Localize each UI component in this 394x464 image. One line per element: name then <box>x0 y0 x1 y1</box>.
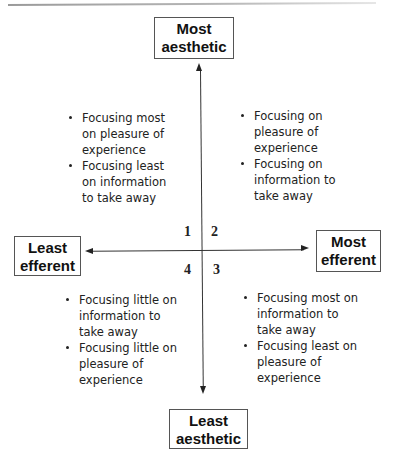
axis-label-least-aesthetic: Least aesthetic <box>169 409 248 449</box>
vertical-axis-line <box>200 70 204 390</box>
bullet-line: on pleasure of <box>82 126 179 142</box>
bullet-line: pleasure of <box>79 356 186 372</box>
bullet-line: Focusing least on <box>257 338 374 354</box>
axis-label-line: Most <box>155 20 233 38</box>
bullet-line: experience <box>254 140 361 156</box>
bullet-line: Focusing on <box>254 108 361 124</box>
quadrant-number-4: 4 <box>184 262 191 278</box>
bullet-line: take away <box>254 188 361 204</box>
axis-label-most-aesthetic: Most aesthetic <box>154 17 234 59</box>
arrow-right-icon <box>301 245 309 251</box>
bullet-line: to take away <box>82 190 179 206</box>
axis-label-line: aesthetic <box>170 430 247 448</box>
axis-label-least-efferent: Least efferent <box>14 236 81 276</box>
axis-label-line: Least <box>15 239 80 257</box>
bullet-line: information to <box>254 172 361 188</box>
arrow-left-icon <box>85 248 93 254</box>
bullet-line: information to <box>79 308 186 324</box>
bullet-line: Focusing most on <box>257 290 374 306</box>
bullet-item: Focusing least on information to take aw… <box>69 158 179 206</box>
bullet-line: pleasure of <box>254 124 361 140</box>
axis-label-line: efferent <box>317 251 380 269</box>
bullet-item: Focusing least on pleasure of experience <box>244 338 374 386</box>
bullet-line: experience <box>257 370 374 386</box>
bullet-line: information to <box>257 306 374 322</box>
arrow-down-icon <box>200 386 206 394</box>
bullet-line: Focusing least <box>82 158 179 174</box>
horizontal-axis-line <box>90 249 304 251</box>
bullet-item: Focusing most on pleasure of experience <box>69 110 179 158</box>
bullet-item: Focusing most on information to take awa… <box>244 290 374 338</box>
axis-label-line: Most <box>317 233 380 251</box>
bullet-line: experience <box>82 142 179 158</box>
quadrant-3-bullets: Focusing most on information to take awa… <box>244 290 374 386</box>
bullet-item: Focusing little on information to take a… <box>66 292 186 340</box>
quadrant-1-bullets: Focusing most on pleasure of experience … <box>69 110 179 206</box>
bullet-line: Focusing little on <box>79 340 186 356</box>
axis-label-most-efferent: Most efferent <box>316 230 381 272</box>
bullet-item: Focusing on information to take away <box>241 156 361 204</box>
bullet-item: Focusing little on pleasure of experienc… <box>66 340 186 388</box>
bullet-line: on information <box>82 174 179 190</box>
bullet-line: take away <box>79 324 186 340</box>
bullet-line: experience <box>79 372 186 388</box>
axis-label-line: aesthetic <box>155 38 233 56</box>
bullet-line: Focusing on <box>254 156 361 172</box>
axis-label-line: Least <box>170 412 247 430</box>
quadrant-number-2: 2 <box>211 224 218 240</box>
bullet-item: Focusing on pleasure of experience <box>241 108 361 156</box>
quadrant-2-bullets: Focusing on pleasure of experience Focus… <box>241 108 361 204</box>
bullet-line: Focusing most <box>82 110 179 126</box>
top-rule-divider <box>8 2 376 6</box>
bullet-line: pleasure of <box>257 354 374 370</box>
bullet-line: Focusing little on <box>79 292 186 308</box>
quadrant-4-bullets: Focusing little on information to take a… <box>66 292 186 388</box>
quadrant-number-1: 1 <box>184 224 191 240</box>
quadrant-number-3: 3 <box>213 262 220 278</box>
arrow-up-icon <box>196 63 202 71</box>
bullet-line: take away <box>257 322 374 338</box>
axis-label-line: efferent <box>15 257 80 275</box>
